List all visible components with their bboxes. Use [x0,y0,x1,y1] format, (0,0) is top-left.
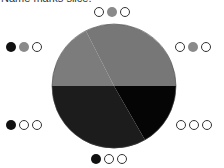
empty-marker-icon[interactable] [201,42,211,52]
dot-group-upper-right [175,42,211,52]
empty-marker-icon[interactable] [32,42,42,52]
gray-marker-icon[interactable] [19,42,29,52]
empty-marker-icon[interactable] [104,154,114,164]
pie-wheel [0,0,224,168]
black-marker-icon[interactable] [6,120,16,130]
dot-group-top [94,7,130,17]
gray-marker-icon[interactable] [188,42,198,52]
empty-marker-icon[interactable] [32,120,42,130]
dot-group-bottom [91,154,127,164]
empty-marker-icon[interactable] [175,42,185,52]
black-marker-icon[interactable] [6,42,16,52]
gray-marker-icon[interactable] [107,7,117,17]
dot-group-lower-left [6,120,42,130]
empty-marker-icon[interactable] [94,7,104,17]
dot-group-upper-left [6,42,42,52]
empty-marker-icon[interactable] [176,120,186,130]
black-marker-icon[interactable] [91,154,101,164]
empty-marker-icon[interactable] [189,120,199,130]
empty-marker-icon[interactable] [19,120,29,130]
empty-marker-icon[interactable] [120,7,130,17]
empty-marker-icon[interactable] [117,154,127,164]
empty-marker-icon[interactable] [202,120,212,130]
dot-group-lower-right [176,120,212,130]
